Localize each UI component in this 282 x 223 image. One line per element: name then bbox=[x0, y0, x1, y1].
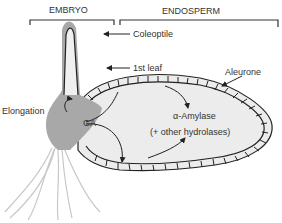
aleurone-label: Aleurone bbox=[225, 67, 261, 77]
amylase-label: α-Amylase bbox=[173, 111, 216, 121]
hydrolases-label: (+ other hydrolases) bbox=[150, 127, 230, 137]
first-leaf-label: 1st leaf bbox=[133, 63, 163, 73]
embryo-heading: EMBRYO bbox=[49, 5, 88, 15]
roots bbox=[5, 148, 100, 220]
endosperm-bracket bbox=[120, 20, 278, 27]
seed-germination-diagram: EMBRYO ENDOSPERM bbox=[0, 0, 282, 223]
endosperm-heading: ENDOSPERM bbox=[162, 6, 220, 16]
aleurone-leader bbox=[222, 76, 242, 86]
ga-label: GA bbox=[83, 118, 96, 128]
elongation-label: Elongation bbox=[2, 106, 45, 116]
coleoptile-label: Coleoptile bbox=[133, 29, 173, 39]
